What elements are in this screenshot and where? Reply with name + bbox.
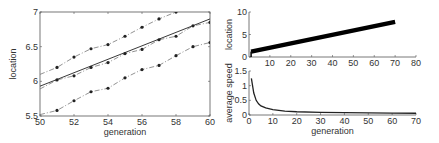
x-tick-label: 54 xyxy=(103,117,113,127)
data-point-marker xyxy=(106,61,109,64)
data-point-marker xyxy=(72,55,75,58)
data-point-marker xyxy=(106,43,109,46)
data-point-marker xyxy=(174,10,177,13)
y-tick-label: 0 xyxy=(242,110,247,120)
figure: 5052545658605.566.57generationlocation10… xyxy=(0,0,439,143)
y-tick-label: 0.5 xyxy=(234,95,247,105)
x-axis-label: generation xyxy=(311,126,354,136)
x-tick-label: 70 xyxy=(390,58,400,68)
data-point-marker xyxy=(123,35,126,38)
x-tick-label: 52 xyxy=(69,117,79,127)
data-point-marker xyxy=(89,47,92,50)
data-point-marker xyxy=(191,45,194,48)
y-tick-label: 10 xyxy=(237,7,247,17)
y-axis-label: location xyxy=(8,48,18,79)
data-point-marker xyxy=(174,54,177,57)
x-tick-label: 60 xyxy=(205,117,215,127)
data-point-marker xyxy=(140,26,143,29)
x-tick-label: 0 xyxy=(246,116,251,126)
x-tick-label: 80 xyxy=(411,58,421,68)
axes-box xyxy=(40,12,210,116)
x-tick-label: 10 xyxy=(265,58,275,68)
series-fit xyxy=(40,19,210,86)
chart-panel-right-top: 10203040506070800510location xyxy=(224,7,421,68)
data-point-marker xyxy=(157,17,160,20)
data-point-marker xyxy=(123,76,126,79)
series-average speed xyxy=(251,78,416,113)
x-tick-label: 70 xyxy=(411,116,421,126)
data-point-marker xyxy=(174,35,177,38)
y-tick-label: 0 xyxy=(242,52,247,62)
y-tick-label: 6 xyxy=(33,76,38,86)
chart-panel-right-bottom: 01020304050607000.511.5generationaverage… xyxy=(224,63,421,136)
x-tick-label: 60 xyxy=(369,58,379,68)
x-tick-label: 10 xyxy=(268,116,278,126)
chart-panel-left: 5052545658605.566.57generationlocation xyxy=(8,7,215,137)
x-tick-label: 30 xyxy=(316,116,326,126)
x-tick-label: 50 xyxy=(348,58,358,68)
data-point-marker xyxy=(157,64,160,67)
data-point-marker xyxy=(89,90,92,93)
y-axis-label: location xyxy=(224,19,234,50)
x-tick-label: 60 xyxy=(387,116,397,126)
y-tick-label: 5 xyxy=(242,30,247,40)
data-point-marker xyxy=(208,21,211,24)
x-tick-label: 40 xyxy=(339,116,349,126)
data-point-marker xyxy=(140,68,143,71)
y-tick-label: 1 xyxy=(242,81,247,91)
data-point-marker xyxy=(55,109,58,112)
x-tick-label: 30 xyxy=(307,58,317,68)
x-tick-label: 50 xyxy=(363,116,373,126)
x-tick-label: 20 xyxy=(286,58,296,68)
x-tick-label: 20 xyxy=(292,116,302,126)
y-tick-label: 5.5 xyxy=(25,111,38,121)
series-location band xyxy=(251,22,395,52)
data-point-marker xyxy=(106,87,109,90)
data-point-marker xyxy=(140,48,143,51)
data-point-marker xyxy=(55,66,58,69)
y-axis-label: average speed xyxy=(224,63,234,123)
y-tick-label: 6.5 xyxy=(25,42,38,52)
x-tick-label: 40 xyxy=(327,58,337,68)
y-tick-label: 1.5 xyxy=(234,66,247,76)
data-point-marker xyxy=(208,41,211,44)
y-tick-label: 7 xyxy=(33,7,38,17)
x-axis-label: generation xyxy=(104,127,147,137)
x-tick-label: 58 xyxy=(171,117,181,127)
data-point-marker xyxy=(72,74,75,77)
x-tick-label: 56 xyxy=(137,117,147,127)
data-point-marker xyxy=(72,99,75,102)
